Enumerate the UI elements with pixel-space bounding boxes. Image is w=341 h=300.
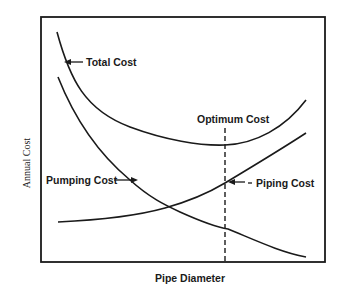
pumping-cost-curve [58, 77, 306, 257]
cost-vs-diameter-chart: Total Cost Optimum Cost Pumping Cost Pip… [0, 0, 341, 300]
optimum-cost-label: Optimum Cost [197, 113, 270, 125]
plot-frame [41, 17, 325, 262]
y-axis-label: Annual Cost [21, 138, 32, 189]
total-cost-curve [57, 32, 306, 145]
arrow-head-icon [131, 177, 138, 183]
total-cost-label: Total Cost [86, 56, 137, 68]
piping-cost-label: Piping Cost [256, 177, 315, 189]
pumping-cost-label: Pumping Cost [46, 174, 118, 186]
x-axis-label: Pipe Diameter [155, 272, 225, 284]
